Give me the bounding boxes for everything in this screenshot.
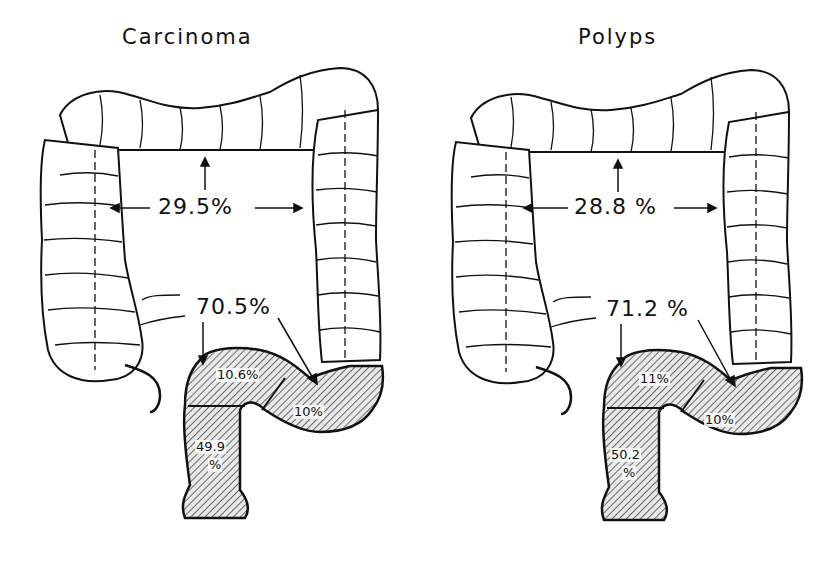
- distal-percentage: 71.2 %: [606, 296, 689, 321]
- rectum-percentage-unit: %: [208, 458, 222, 472]
- carcinoma-colon-diagram: [0, 0, 416, 563]
- rectum-percentage-value: 50.2: [610, 448, 641, 462]
- proximal-percentage: 29.5%: [158, 194, 233, 219]
- sigmoid-percentage: 11%: [639, 372, 670, 386]
- descending-junction-percentage: 10%: [704, 413, 735, 427]
- descending-junction-percentage: 10%: [293, 405, 324, 419]
- carcinoma-panel: Carcinoma: [0, 0, 416, 563]
- distal-percentage: 70.5%: [196, 294, 271, 319]
- rectum-percentage-value: 49.9: [195, 440, 226, 454]
- proximal-percentage: 28.8 %: [574, 194, 657, 219]
- rectum-percentage-unit: %: [622, 466, 636, 480]
- sigmoid-percentage: 10.6%: [216, 368, 259, 382]
- polyps-panel: Polyps: [416, 0, 832, 563]
